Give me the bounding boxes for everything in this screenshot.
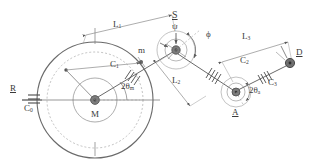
diagram-vector-layer [0, 0, 313, 166]
joint-d-bracket-2 [276, 52, 285, 60]
label-joint-d: D [296, 48, 303, 57]
connecting-rod-3 [238, 64, 290, 90]
connecting-rod-2 [178, 54, 236, 92]
dimension-l2-ext-bot [190, 96, 206, 106]
label-ground-support: R [10, 84, 16, 93]
dimension-l3-ext-left [222, 62, 233, 82]
diagram-canvas: R C0 M m C1 L1 L2 L3 S ψ ϕ C2 C3 A D 2θm… [0, 0, 313, 166]
damper-c2-symbol [206, 68, 221, 84]
joint-d-bracket [281, 46, 287, 58]
crank-to-m-line [66, 63, 140, 70]
label-damper-c0: C0 [24, 104, 33, 114]
label-disc-center-m: M [91, 110, 99, 119]
label-joint-a: A [232, 108, 239, 117]
label-angle-theta-a: 2θa [249, 86, 260, 96]
label-damper-c2: C2 [240, 56, 249, 66]
label-joint-s: S [172, 10, 178, 20]
angle-phi-ref-line [176, 30, 200, 50]
label-link-l2: L2 [172, 76, 180, 86]
label-damper-c1: C1 [110, 60, 119, 70]
dimension-l2-ext-top [156, 54, 170, 63]
dimension-l1 [86, 15, 172, 35]
label-mass-point-m: m [138, 46, 145, 55]
joint-d-center-dot [289, 62, 292, 65]
label-angle-psi: ψ [172, 22, 178, 31]
damper-c0-symbol [28, 95, 40, 103]
label-angle-phi: ϕ [206, 30, 211, 39]
label-link-l3: L3 [242, 32, 250, 42]
label-damper-c3: C3 [268, 78, 277, 88]
dimension-l3 [222, 42, 288, 62]
label-angle-theta-m: 2θm [121, 82, 134, 92]
label-link-l1: L1 [113, 20, 121, 30]
crank-arm [66, 70, 95, 100]
